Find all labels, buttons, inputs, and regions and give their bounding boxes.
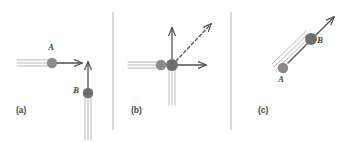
particle-b [166, 59, 178, 71]
figure-background [0, 0, 353, 142]
particle-a [47, 58, 57, 68]
particle-a-label: A [277, 74, 284, 84]
collision-figure: AB(a)(b)AB(c) [0, 0, 353, 142]
panel-caption-b: (b) [131, 105, 142, 115]
panel-caption-a: (a) [16, 105, 27, 115]
particle-b-label: B [72, 85, 79, 95]
panel-caption-c: (c) [258, 105, 269, 115]
particle-a [278, 63, 288, 73]
particle-b [83, 88, 93, 98]
particle-a [156, 60, 166, 70]
particle-b-label: B [316, 35, 323, 45]
particle-a-label: A [47, 42, 54, 52]
figure-canvas: AB(a)(b)AB(c) [0, 0, 353, 142]
particle-b [305, 33, 317, 45]
